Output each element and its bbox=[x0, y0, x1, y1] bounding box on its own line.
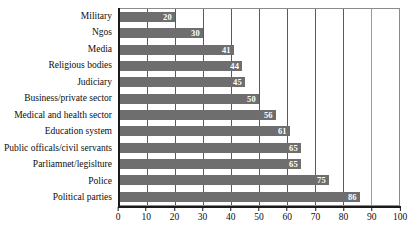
bar-row: 50 bbox=[119, 91, 399, 107]
x-tick-mark bbox=[400, 207, 401, 211]
x-tick: 10 bbox=[141, 207, 151, 223]
x-tick-mark bbox=[146, 207, 147, 211]
x-tick-label: 60 bbox=[282, 213, 292, 223]
bar-value-label: 86 bbox=[348, 193, 360, 202]
x-tick-label: 40 bbox=[226, 213, 236, 223]
x-tick-mark bbox=[315, 207, 316, 211]
bar-row: 65 bbox=[119, 140, 399, 156]
x-tick-label: 50 bbox=[254, 213, 264, 223]
bar-row: 65 bbox=[119, 156, 399, 172]
bar-value-label: 56 bbox=[264, 111, 276, 120]
x-tick: 20 bbox=[170, 207, 180, 223]
bar[interactable]: 30 bbox=[119, 28, 203, 38]
bar-row: 86 bbox=[119, 189, 399, 205]
category-label: Public officals/civil servants bbox=[0, 140, 115, 157]
x-tick: 80 bbox=[339, 207, 349, 223]
x-tick: 40 bbox=[226, 207, 236, 223]
x-tick-mark bbox=[230, 207, 231, 211]
category-label: Political parties bbox=[0, 190, 115, 207]
x-tick-label: 90 bbox=[367, 213, 377, 223]
x-tick-mark bbox=[118, 207, 119, 211]
bar-row: 75 bbox=[119, 172, 399, 188]
bar-value-label: 61 bbox=[278, 127, 290, 136]
bar[interactable]: 50 bbox=[119, 94, 259, 104]
bar-series: 203041444550566165657586 bbox=[119, 9, 399, 205]
bar[interactable]: 86 bbox=[119, 192, 360, 202]
plot-area: 203041444550566165657586 bbox=[118, 8, 400, 206]
category-label: Religious bodies bbox=[0, 58, 115, 75]
category-label: Parliamnet/legislture bbox=[0, 157, 115, 174]
x-tick: 60 bbox=[282, 207, 292, 223]
x-tick-label: 30 bbox=[198, 213, 208, 223]
bar-chart: MilitaryNgosMediaReligious bodiesJudicia… bbox=[0, 0, 418, 230]
bar-row: 41 bbox=[119, 42, 399, 58]
bar[interactable]: 44 bbox=[119, 61, 242, 71]
bar-value-label: 41 bbox=[222, 46, 234, 55]
bar[interactable]: 41 bbox=[119, 45, 234, 55]
bar-value-label: 45 bbox=[233, 78, 245, 87]
category-label: Ngos bbox=[0, 25, 115, 42]
bar-value-label: 44 bbox=[230, 62, 242, 71]
category-label: Police bbox=[0, 173, 115, 190]
bar[interactable]: 61 bbox=[119, 126, 290, 136]
x-tick-mark bbox=[287, 207, 288, 211]
bar-row: 45 bbox=[119, 74, 399, 90]
bar-row: 44 bbox=[119, 58, 399, 74]
bar-row: 56 bbox=[119, 107, 399, 123]
x-tick: 50 bbox=[254, 207, 264, 223]
bar[interactable]: 20 bbox=[119, 12, 175, 22]
x-tick: 90 bbox=[367, 207, 377, 223]
bar[interactable]: 45 bbox=[119, 77, 245, 87]
x-tick-label: 100 bbox=[393, 213, 407, 223]
category-label: Business/private sector bbox=[0, 91, 115, 108]
category-axis-labels: MilitaryNgosMediaReligious bodiesJudicia… bbox=[0, 8, 115, 206]
category-label: Media bbox=[0, 41, 115, 58]
bar-row: 61 bbox=[119, 123, 399, 139]
bar[interactable]: 56 bbox=[119, 110, 276, 120]
bar-value-label: 75 bbox=[317, 176, 329, 185]
bar-value-label: 20 bbox=[163, 13, 175, 22]
x-tick-mark bbox=[174, 207, 175, 211]
category-label: Judiciary bbox=[0, 74, 115, 91]
x-tick: 70 bbox=[311, 207, 321, 223]
x-tick-label: 0 bbox=[116, 213, 121, 223]
category-label: Military bbox=[0, 8, 115, 25]
x-tick-mark bbox=[371, 207, 372, 211]
bar-row: 30 bbox=[119, 25, 399, 41]
x-tick: 0 bbox=[116, 207, 121, 223]
x-tick-label: 80 bbox=[339, 213, 349, 223]
x-tick-label: 10 bbox=[141, 213, 151, 223]
x-tick-mark bbox=[202, 207, 203, 211]
x-tick-label: 70 bbox=[311, 213, 321, 223]
bar-value-label: 50 bbox=[247, 95, 259, 104]
bar-row: 20 bbox=[119, 9, 399, 25]
bar[interactable]: 75 bbox=[119, 175, 329, 185]
x-tick: 100 bbox=[393, 207, 407, 223]
bar-value-label: 65 bbox=[289, 160, 301, 169]
bar[interactable]: 65 bbox=[119, 143, 301, 153]
bar[interactable]: 65 bbox=[119, 159, 301, 169]
x-tick-label: 20 bbox=[170, 213, 180, 223]
x-tick-mark bbox=[259, 207, 260, 211]
category-label: Medical and health sector bbox=[0, 107, 115, 124]
x-tick: 30 bbox=[198, 207, 208, 223]
x-axis-ticks: 0102030405060708090100 bbox=[118, 207, 400, 230]
y-axis-line bbox=[118, 8, 120, 207]
category-label: Education system bbox=[0, 124, 115, 141]
bar-value-label: 30 bbox=[191, 29, 203, 38]
bar-value-label: 65 bbox=[289, 144, 301, 153]
x-tick-mark bbox=[343, 207, 344, 211]
